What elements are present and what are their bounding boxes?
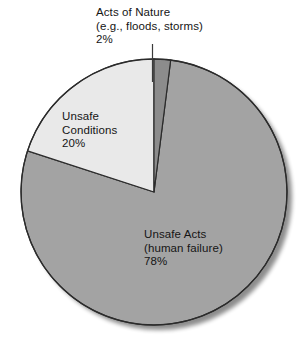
slice-label-unsafe-conditions: Unsafe Conditions 20%	[62, 110, 117, 151]
slice-label-unsafe-acts-line1: Unsafe Acts	[144, 228, 223, 242]
slice-label-unsafe-acts: Unsafe Acts (human failure) 78%	[144, 228, 223, 269]
slice-label-acts-of-nature-line1: Acts of Nature	[96, 6, 203, 20]
slice-label-unsafe-acts-line2: (human failure)	[144, 242, 223, 256]
slice-label-acts-of-nature: Acts of Nature (e.g., floods, storms) 2%	[96, 6, 203, 47]
slice-label-unsafe-conditions-value: 20%	[62, 137, 117, 151]
slice-label-unsafe-acts-value: 78%	[144, 255, 223, 269]
pie-chart-figure: Acts of Nature (e.g., floods, storms) 2%…	[0, 0, 308, 360]
slice-label-acts-of-nature-line2: (e.g., floods, storms)	[96, 20, 203, 34]
slice-label-acts-of-nature-value: 2%	[96, 33, 203, 47]
slice-label-unsafe-conditions-line2: Conditions	[62, 124, 117, 138]
pie-chart-graphic	[0, 0, 308, 360]
slice-label-unsafe-conditions-line1: Unsafe	[62, 110, 117, 124]
